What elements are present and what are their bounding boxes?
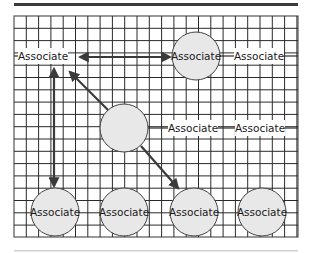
top-rule	[14, 3, 298, 6]
node-label-text: Associate	[234, 50, 284, 62]
node-label-text: Associate	[30, 206, 80, 218]
associate-node-label: Associate	[235, 120, 285, 136]
associate-node-circle: Associate	[99, 188, 149, 236]
node-label-text: Associate	[18, 50, 68, 62]
bottom-rule	[14, 250, 298, 252]
associate-node-circle: Associate	[171, 32, 221, 80]
node-label-text: Associate	[237, 206, 287, 218]
associate-node-circle	[100, 104, 148, 152]
associate-node-circle: Associate	[237, 188, 287, 236]
associate-node-label: Associate	[18, 48, 68, 64]
node-label-text: Associate	[235, 122, 285, 134]
associate-node-circle: Associate	[169, 188, 219, 236]
associate-network-diagram: AssociateAssociateAssociateAssociateAsso…	[0, 0, 314, 253]
node-label-text: Associate	[169, 206, 219, 218]
node-label-text: Associate	[168, 122, 218, 134]
associate-node-label: Associate	[168, 120, 218, 136]
node-label-text: Associate	[99, 206, 149, 218]
node-label-text: Associate	[171, 50, 221, 62]
associate-node-circle: Associate	[30, 188, 80, 236]
associate-node-label: Associate	[234, 48, 284, 64]
node-circle-shape	[100, 104, 148, 152]
